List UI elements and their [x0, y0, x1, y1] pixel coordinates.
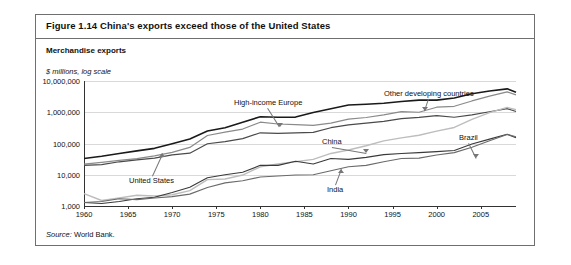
x-tick-mark [481, 206, 482, 209]
annotation-arrow [473, 154, 479, 158]
x-tick-mark [393, 206, 394, 209]
figure-title: Figure 1.14 China's exports exceed those… [46, 20, 330, 31]
x-tick-mark [437, 206, 438, 209]
annotation-arrow [422, 107, 428, 111]
series-label-china: China [322, 137, 342, 146]
figure-panel: Figure 1.14 China's exports exceed those… [35, 14, 535, 246]
y-tick-label: 100,000 [53, 139, 80, 148]
x-tick-label: 1985 [296, 210, 313, 219]
x-tick-mark [84, 206, 85, 209]
source-note: Source: World Bank. [46, 230, 115, 239]
x-tick-mark [260, 206, 261, 209]
series-label-high-income-europe: High-income Europe [234, 98, 302, 107]
x-axis-line [84, 206, 516, 207]
x-tick-label: 1965 [120, 210, 137, 219]
x-tick-label: 1995 [384, 210, 401, 219]
series-line [84, 107, 516, 200]
x-tick-label: 1975 [208, 210, 225, 219]
x-tick-label: 2000 [428, 210, 445, 219]
annotation-arrow [159, 153, 165, 157]
series-label-united-states: United States [129, 176, 174, 185]
x-tick-mark [128, 206, 129, 209]
figure-title-bar: Figure 1.14 China's exports exceed those… [36, 15, 534, 39]
chart-subtitle: Merchandise exports [46, 46, 126, 55]
series-line [84, 134, 516, 202]
x-tick-label: 1970 [164, 210, 181, 219]
source-text: World Bank. [72, 230, 115, 239]
x-tick-mark [304, 206, 305, 209]
plot-area: 10,000,0001,000,000100,00010,0001,000 19… [84, 81, 516, 206]
x-tick-label: 1990 [340, 210, 357, 219]
x-tick-mark [348, 206, 349, 209]
y-axis-units-note: $ millions, log scale [46, 67, 111, 76]
series-label-india: India [327, 185, 343, 194]
x-tick-label: 1960 [76, 210, 93, 219]
annotation-arrow [363, 149, 369, 153]
source-label: Source: [46, 230, 72, 239]
x-tick-mark [216, 206, 217, 209]
series-label-other-developing-countries: Other developing countries [384, 89, 474, 98]
y-tick-label: 1,000,000 [47, 108, 80, 117]
series-line [84, 134, 516, 203]
series-label-brazil: Brazil [459, 133, 478, 142]
x-tick-mark [172, 206, 173, 209]
y-tick-label: 10,000,000 [42, 77, 80, 86]
y-tick-label: 10,000 [57, 170, 80, 179]
annotation-arrow [277, 123, 283, 127]
x-tick-label: 1980 [252, 210, 269, 219]
x-tick-label: 2005 [472, 210, 489, 219]
annotation-arrow [338, 169, 344, 173]
